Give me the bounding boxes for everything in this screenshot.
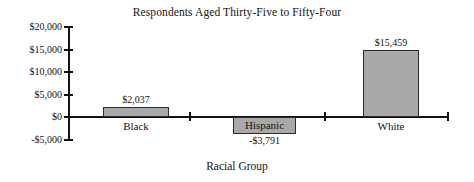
y-axis-tick-mark [64, 116, 73, 118]
y-axis-line [68, 27, 70, 141]
y-tick-label: $15,000 [0, 45, 62, 55]
x-axis-tick-mark [447, 112, 449, 121]
y-tick-label: -$5,000 [0, 135, 62, 145]
x-axis-tick-mark [189, 112, 191, 121]
x-axis-tick-mark [324, 112, 326, 121]
bar [103, 107, 169, 117]
y-axis-tick-mark [64, 71, 73, 73]
category-label: Black [103, 120, 169, 132]
y-axis-tick-mark [64, 26, 73, 28]
bar [363, 50, 419, 117]
category-label: White [363, 120, 419, 132]
y-axis-tick-mark [64, 49, 73, 51]
y-axis-tick-mark [64, 139, 73, 141]
plot-area: $20,000$15,000$10,000$5,000$0-$5,000 $2,… [0, 0, 474, 182]
bar-value-label: $2,037 [103, 94, 169, 105]
x-axis-title: Racial Group [0, 160, 474, 172]
y-tick-label: $10,000 [0, 67, 62, 77]
y-axis-tick-mark [64, 94, 73, 96]
y-tick-label: $5,000 [0, 90, 62, 100]
bar-value-label: -$3,791 [233, 135, 296, 146]
y-tick-label: $0 [0, 112, 62, 122]
bar-value-label: $15,459 [358, 37, 424, 48]
y-tick-label: $20,000 [0, 22, 62, 32]
category-label: Hispanic [233, 117, 296, 134]
bar-chart-figure: Respondents Aged Thirty-Five to Fifty-Fo… [0, 0, 474, 182]
